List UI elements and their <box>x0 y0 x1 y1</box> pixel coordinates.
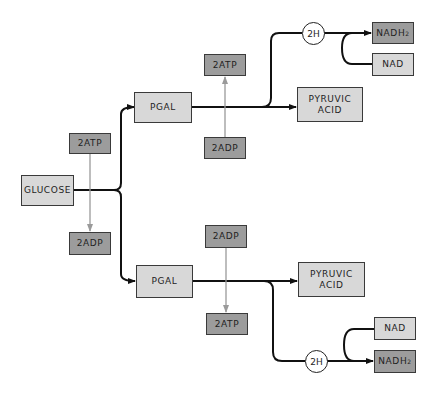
bottom-nad-box: NAD <box>374 317 416 340</box>
top-adp-box: 2ADP <box>204 137 246 159</box>
top-nad-box: NAD <box>372 53 414 76</box>
bottom-pyruvic-acid-box: PYRUVIC ACID <box>298 262 365 297</box>
bottom-nadh2-label: NADH <box>378 356 407 367</box>
top-hydrogen-circle: 2H <box>302 22 325 45</box>
top-nadh2-subscript: 2 <box>405 28 409 39</box>
top-atp-box: 2ATP <box>204 54 246 76</box>
bottom-hydrogen-circle: 2H <box>305 350 328 373</box>
atp-input-box: 2ATP <box>69 133 111 154</box>
top-nadh2-label: NADH <box>376 28 405 39</box>
top-pyruvic-acid-box: PYRUVIC ACID <box>297 87 363 122</box>
glucose-box: GLUCOSE <box>21 175 74 206</box>
top-nadh2-box: NADH2 <box>372 22 414 44</box>
bottom-nadh2-box: NADH2 <box>374 350 416 373</box>
top-pgal-box: PGAL <box>134 92 192 123</box>
adp-output-box: 2ADP <box>69 232 111 255</box>
bottom-adp-box: 2ADP <box>205 225 247 248</box>
bottom-pgal-box: PGAL <box>136 265 193 298</box>
bottom-atp-box: 2ATP <box>206 313 248 335</box>
bottom-nadh2-subscript: 2 <box>407 356 411 367</box>
